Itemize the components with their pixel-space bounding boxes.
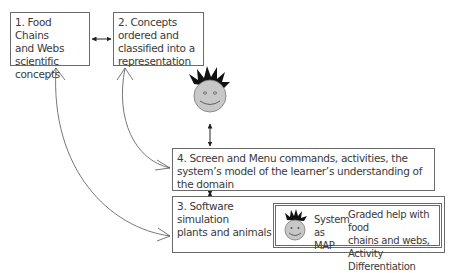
- system-map-label: System as MAP: [314, 213, 346, 252]
- curve-1-3: [56, 68, 170, 236]
- node-concepts-ordered: 2. Concepts ordered and classified into …: [113, 12, 204, 66]
- node-concepts-ordered-label: 2. Concepts ordered and classified into …: [118, 16, 195, 67]
- node-food-chains: 1. Food Chains and Webs scientific conce…: [10, 12, 90, 66]
- node-screen-menu-label: 4. Screen and Menu commands, activities,…: [177, 152, 422, 190]
- learner-smiley-icon: [189, 66, 230, 112]
- system-map-description: Graded help with food chains and webs, A…: [348, 208, 440, 273]
- node-software-simulation-label: 3. Software simulation plants and animal…: [177, 200, 271, 238]
- node-system-map: System as MAP Graded help with food chai…: [273, 203, 442, 248]
- curve-2-4: [122, 68, 170, 168]
- node-software-simulation: 3. Software simulation plants and animal…: [172, 196, 445, 253]
- node-food-chains-label: 1. Food Chains and Webs scientific conce…: [15, 16, 64, 80]
- system-smiley-icon: [279, 208, 313, 242]
- node-screen-menu: 4. Screen and Menu commands, activities,…: [172, 148, 435, 191]
